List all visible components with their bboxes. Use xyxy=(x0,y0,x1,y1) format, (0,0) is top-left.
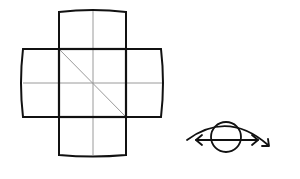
eye-with-rotation-arrow-icon xyxy=(187,122,269,152)
guide-lines xyxy=(23,11,162,155)
cube-net-diagram xyxy=(0,0,300,179)
